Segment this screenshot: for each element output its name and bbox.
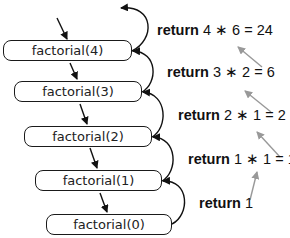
return-label-base: return 1 [199,195,253,211]
return-expr: 1 ∗ 1 = 1 [234,151,290,167]
call-label: factorial(4) [32,43,104,58]
call-box-factorial-2: factorial(2) [24,126,152,147]
return-label-2: return 2 ∗ 1 = 2 [178,107,286,123]
call-box-factorial-0: factorial(0) [46,214,172,235]
return-expr: 3 ∗ 2 = 6 [213,64,275,80]
return-keyword: return [167,64,209,80]
call-label: factorial(2) [52,129,124,144]
call-box-factorial-3: factorial(3) [14,81,142,102]
return-label-1: return 1 ∗ 1 = 1 [188,151,290,167]
return-keyword: return [157,22,199,38]
return-keyword: return [199,195,241,211]
return-expr: 4 ∗ 6 = 24 [203,22,273,38]
return-expr: 1 [245,195,253,211]
call-box-factorial-4: factorial(4) [3,40,132,61]
call-label: factorial(1) [63,173,135,188]
return-expr: 2 ∗ 1 = 2 [224,107,286,123]
call-label: factorial(3) [42,84,114,99]
call-label: factorial(0) [73,217,145,232]
return-label-24: return 4 ∗ 6 = 24 [157,22,273,38]
return-arrows [121,8,185,224]
return-keyword: return [178,107,220,123]
return-label-6: return 3 ∗ 2 = 6 [167,64,275,80]
call-box-factorial-1: factorial(1) [35,170,162,191]
return-keyword: return [188,151,230,167]
